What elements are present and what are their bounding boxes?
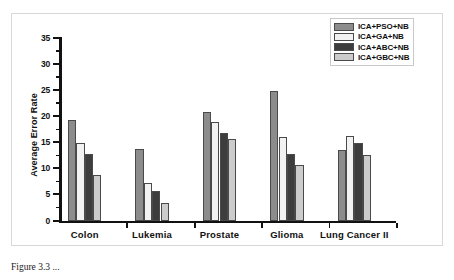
chart-legend: ICA+PSO+NBICA+GA+NBICA+ABC+NBICA+GBC+NB (330, 18, 414, 66)
legend-swatch (334, 53, 354, 61)
legend-label: ICA+GA+NB (358, 32, 404, 41)
bar (279, 137, 287, 220)
legend-swatch (334, 33, 354, 41)
x-category-label: Prostate (200, 229, 240, 240)
bar (68, 120, 76, 220)
x-category-label: Lung Cancer II (320, 229, 389, 240)
x-tick (396, 223, 398, 228)
x-tick (261, 223, 263, 228)
figure-caption: Figure 3.3 ... (11, 262, 443, 272)
figure-frame: 05101520253035 Average Error Rate ColonL… (11, 13, 443, 246)
bar (93, 175, 101, 221)
x-category-label: Lukemia (132, 229, 172, 240)
legend-swatch (334, 23, 354, 31)
legend-label: ICA+ABC+NB (358, 43, 409, 52)
bar (211, 122, 219, 221)
x-tick (329, 223, 331, 228)
bar (338, 150, 346, 220)
bar (270, 91, 278, 220)
x-tick (126, 223, 128, 228)
legend-item: ICA+ABC+NB (334, 42, 409, 52)
bar (85, 154, 93, 220)
bar (287, 154, 295, 220)
legend-item: ICA+GBC+NB (334, 52, 409, 62)
bar-chart-plot-area: 05101520253035 Average Error Rate ColonL… (12, 14, 444, 247)
legend-swatch (334, 43, 354, 51)
bar (203, 112, 211, 220)
legend-item: ICA+PSO+NB (334, 22, 409, 32)
bar (144, 183, 152, 221)
x-category-label: Colon (71, 229, 99, 240)
bar (161, 203, 169, 221)
legend-label: ICA+GBC+NB (358, 53, 409, 62)
bar (76, 143, 84, 221)
legend-item: ICA+GA+NB (334, 32, 409, 42)
bar (354, 143, 362, 220)
bar (346, 136, 354, 220)
bar (135, 149, 143, 221)
x-tick (194, 223, 196, 228)
bar (220, 133, 228, 221)
bar (295, 165, 303, 220)
bar (228, 139, 236, 220)
x-category-label: Glioma (270, 229, 303, 240)
bar (363, 155, 371, 220)
legend-label: ICA+PSO+NB (358, 22, 409, 31)
bar (152, 191, 160, 220)
